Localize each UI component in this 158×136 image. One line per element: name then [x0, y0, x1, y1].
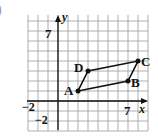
x-tick-neg2: −2: [22, 100, 35, 114]
point-a-label: A: [64, 83, 74, 98]
point-b: [126, 79, 131, 84]
x-tick-7: 7: [124, 103, 131, 118]
y-tick-neg2: −2: [35, 113, 48, 127]
point-b-label: B: [131, 75, 140, 90]
point-d-label: D: [74, 60, 83, 75]
point-d: [86, 69, 91, 74]
point-c: [136, 59, 141, 64]
y-axis: [55, 15, 61, 130]
y-tick-7: 7: [45, 26, 52, 41]
point-a: [76, 89, 81, 94]
y-axis-label: y: [60, 10, 68, 24]
x-axis-label: x: [138, 102, 145, 116]
y-axis-arrow-icon: [55, 15, 61, 22]
coordinate-plane: A B C D 7 7 −2 −2 y x: [0, 0, 158, 136]
point-c-label: C: [141, 54, 150, 69]
